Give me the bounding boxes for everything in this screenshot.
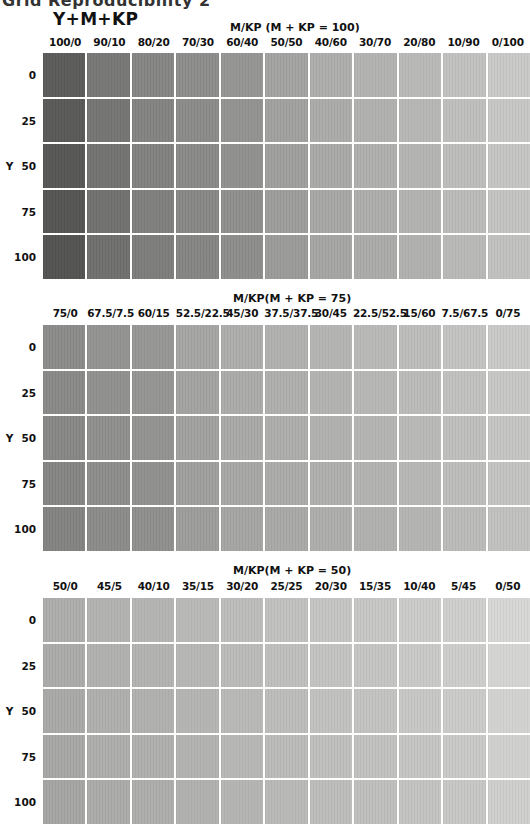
- column-label: 15/60: [397, 307, 441, 319]
- color-swatch: [132, 689, 174, 733]
- row-label: 75: [21, 206, 36, 218]
- color-swatch: [488, 144, 530, 188]
- color-swatch: [488, 235, 530, 279]
- color-swatch: [443, 735, 485, 779]
- color-swatch: [488, 371, 530, 415]
- color-swatch: [310, 235, 352, 279]
- column-label: 67.5/7.5: [87, 307, 131, 319]
- row-label: 100: [14, 251, 36, 263]
- row-label: 0: [29, 69, 36, 81]
- row-value: 50: [21, 705, 36, 717]
- color-swatch: [176, 780, 218, 824]
- row-value: 50: [21, 432, 36, 444]
- color-swatch: [265, 507, 307, 551]
- row-label: 25: [21, 115, 36, 127]
- color-swatch: [310, 371, 352, 415]
- color-swatch: [176, 735, 218, 779]
- color-swatch: [265, 144, 307, 188]
- color-swatch: [310, 507, 352, 551]
- color-swatch: [310, 735, 352, 779]
- color-swatch: [265, 780, 307, 824]
- color-swatch: [221, 144, 263, 188]
- column-label: 50/0: [43, 580, 87, 592]
- color-swatch: [176, 325, 218, 369]
- color-swatch: [399, 462, 441, 506]
- color-swatch: [443, 689, 485, 733]
- y-axis-label: Y: [6, 432, 14, 444]
- color-swatch: [265, 99, 307, 143]
- color-grid: [43, 325, 530, 551]
- color-swatch: [354, 235, 396, 279]
- color-swatch: [87, 689, 129, 733]
- color-swatch: [354, 99, 396, 143]
- color-swatch: [354, 689, 396, 733]
- column-label: 0/100: [486, 36, 530, 48]
- color-swatch: [87, 507, 129, 551]
- color-swatch: [265, 644, 307, 688]
- color-swatch: [399, 371, 441, 415]
- column-labels: 100/090/1080/2070/3060/4050/5040/6030/70…: [43, 36, 530, 48]
- row-label: 75: [21, 751, 36, 763]
- color-swatch: [132, 735, 174, 779]
- color-grid: [43, 598, 530, 824]
- color-swatch: [265, 735, 307, 779]
- row-label: 0: [29, 614, 36, 626]
- color-swatch: [176, 53, 218, 97]
- color-swatch: [43, 53, 85, 97]
- color-grid: [43, 53, 530, 279]
- color-swatch: [176, 598, 218, 642]
- color-swatch: [399, 598, 441, 642]
- color-swatch: [443, 190, 485, 234]
- color-swatch: [354, 190, 396, 234]
- color-swatch: [43, 780, 85, 824]
- color-swatch: [43, 644, 85, 688]
- color-swatch: [132, 507, 174, 551]
- color-swatch: [310, 780, 352, 824]
- color-swatch: [132, 598, 174, 642]
- color-swatch: [221, 780, 263, 824]
- color-swatch: [221, 598, 263, 642]
- color-swatch: [221, 689, 263, 733]
- color-swatch: [176, 190, 218, 234]
- row-value: 75: [21, 206, 36, 218]
- color-swatch: [265, 416, 307, 460]
- color-swatch: [176, 507, 218, 551]
- color-swatch: [399, 235, 441, 279]
- color-swatch: [132, 644, 174, 688]
- color-swatch: [310, 99, 352, 143]
- row-value: 100: [14, 251, 36, 263]
- color-swatch: [399, 325, 441, 369]
- color-swatch: [354, 53, 396, 97]
- color-swatch: [443, 644, 485, 688]
- row-value: 0: [29, 341, 36, 353]
- row-label: 25: [21, 387, 36, 399]
- column-label: 90/10: [87, 36, 131, 48]
- color-swatch: [399, 99, 441, 143]
- row-label: 0: [29, 341, 36, 353]
- row-value: 25: [21, 387, 36, 399]
- color-swatch: [176, 144, 218, 188]
- row-value: 25: [21, 660, 36, 672]
- color-swatch: [87, 644, 129, 688]
- color-swatch: [443, 325, 485, 369]
- color-swatch: [399, 507, 441, 551]
- color-swatch: [176, 371, 218, 415]
- color-swatch: [87, 598, 129, 642]
- row-value: 75: [21, 478, 36, 490]
- color-swatch: [354, 780, 396, 824]
- section-title: M/KP (M + KP = 100): [230, 21, 360, 34]
- color-swatch: [399, 144, 441, 188]
- color-swatch: [221, 53, 263, 97]
- column-label: 15/35: [353, 580, 397, 592]
- color-swatch: [265, 462, 307, 506]
- column-label: 10/90: [441, 36, 485, 48]
- color-swatch: [354, 371, 396, 415]
- column-label: 10/40: [397, 580, 441, 592]
- column-label: 0/50: [486, 580, 530, 592]
- color-swatch: [43, 325, 85, 369]
- color-swatch: [265, 598, 307, 642]
- color-swatch: [221, 462, 263, 506]
- color-swatch: [43, 371, 85, 415]
- column-label: 5/45: [441, 580, 485, 592]
- color-swatch: [399, 644, 441, 688]
